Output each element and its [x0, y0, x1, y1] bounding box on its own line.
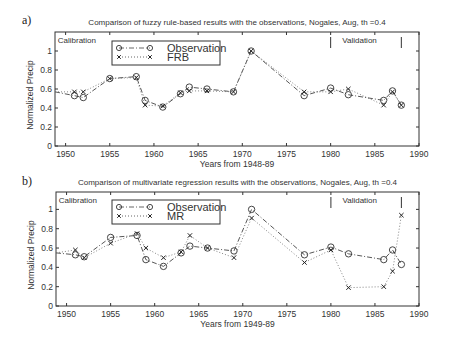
- data-point-x: [161, 255, 165, 259]
- y-axis-label: Normalized Precip: [26, 220, 36, 290]
- x-tick-label: 1955: [101, 309, 120, 319]
- data-point-x: [178, 91, 182, 95]
- data-point-x: [249, 216, 253, 220]
- data-point-circle: [389, 88, 395, 94]
- data-point-x: [81, 90, 85, 94]
- data-point-circle: [133, 73, 139, 79]
- y-tick-label: 0.2: [41, 282, 53, 292]
- data-point-x: [399, 213, 403, 217]
- y-tick-label: 0.4: [40, 103, 52, 113]
- x-tick-label: 1965: [189, 149, 208, 159]
- panel-label: b): [22, 174, 32, 188]
- chart-panel-a: a)Comparison of fuzzy rule-based results…: [22, 13, 429, 169]
- data-point-x: [108, 241, 112, 245]
- data-point-x: [390, 269, 394, 273]
- annotation-calibration: Calibration: [58, 36, 96, 45]
- data-point-circle: [248, 206, 254, 212]
- data-point-x: [188, 233, 192, 237]
- annotation-calibration: Calibration: [59, 196, 97, 205]
- data-point-x: [179, 250, 183, 254]
- plot-frame: [55, 32, 419, 146]
- data-point-x: [346, 285, 350, 289]
- x-tick-label: 1970: [233, 309, 252, 319]
- y-tick-label: 0.2: [40, 122, 52, 132]
- data-point-x: [82, 255, 86, 259]
- panel-label: a): [22, 13, 31, 27]
- x-tick-label: 1950: [57, 309, 76, 319]
- data-point-x: [382, 284, 386, 288]
- annotation-validation: Validation: [342, 196, 377, 205]
- x-tick-label: 1950: [56, 149, 75, 159]
- y-tick-label: 0: [48, 301, 53, 311]
- x-tick-label: 1955: [100, 149, 119, 159]
- x-tick-label: 1985: [365, 149, 384, 159]
- data-point-x: [302, 260, 306, 264]
- chart-title: Comparison of fuzzy rule-based results w…: [88, 18, 386, 27]
- data-point-x: [249, 49, 253, 53]
- data-point-x: [399, 103, 403, 107]
- data-point-circle: [80, 94, 86, 100]
- x-tick-label: 1960: [145, 309, 164, 319]
- annotation-validation: Validation: [342, 36, 377, 45]
- y-tick-label: 0.6: [41, 243, 53, 253]
- plot-frame: [56, 192, 419, 306]
- y-tick-label: 0: [47, 141, 52, 151]
- x-tick-label: 1980: [321, 149, 340, 159]
- legend: ObservationFRB: [112, 41, 226, 65]
- x-axis-label: Years from 1949-89: [200, 319, 275, 329]
- x-tick-label: 1985: [365, 309, 384, 319]
- legend-label-frb: FRB: [167, 51, 189, 63]
- x-tick-label: 1970: [233, 149, 252, 159]
- x-tick-label: 1990: [410, 149, 429, 159]
- data-point-x: [302, 90, 306, 94]
- figure: a)Comparison of fuzzy rule-based results…: [0, 0, 449, 338]
- series-line-mr: [56, 215, 401, 287]
- x-tick-label: 1960: [144, 149, 163, 159]
- data-point-circle: [398, 261, 404, 267]
- data-point-x: [134, 75, 138, 79]
- data-point-x: [144, 246, 148, 250]
- x-tick-label: 1965: [189, 309, 208, 319]
- legend: ObservationMR: [112, 200, 226, 224]
- data-point-x: [390, 90, 394, 94]
- data-point-circle: [389, 247, 395, 253]
- legend-label-mr: MR: [167, 210, 184, 222]
- y-tick-label: 0.8: [41, 224, 53, 234]
- x-tick-label: 1980: [321, 309, 340, 319]
- data-point-x: [72, 90, 76, 94]
- x-axis-label: Years from 1948-89: [200, 159, 275, 169]
- y-tick-label: 1: [47, 46, 52, 56]
- y-tick-label: 1: [48, 204, 53, 214]
- x-tick-label: 1975: [277, 149, 296, 159]
- y-tick-label: 0.6: [40, 84, 52, 94]
- x-tick-label: 1990: [410, 309, 429, 319]
- x-tick-label: 1975: [277, 309, 296, 319]
- data-point-x: [232, 255, 236, 259]
- chart-title: Comparison of multivariate regression re…: [78, 178, 398, 187]
- data-point-x: [187, 89, 191, 93]
- y-tick-label: 0.8: [40, 65, 52, 75]
- chart-panel-b: b)Comparison of multivariate regression …: [22, 174, 429, 329]
- y-tick-label: 0.4: [41, 262, 53, 272]
- y-axis-label: Normalized Precip: [25, 60, 35, 130]
